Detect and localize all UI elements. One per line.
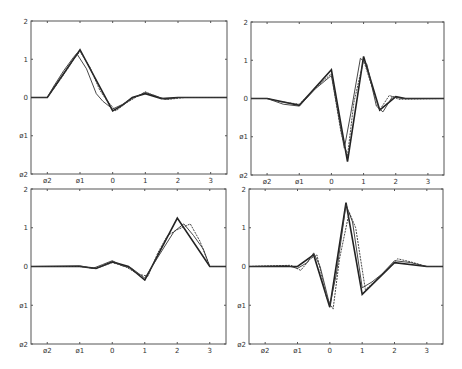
x-tick-label: ø2 xyxy=(43,347,52,355)
y-tick-label: 2 xyxy=(242,186,246,194)
series-estimate-1 xyxy=(251,58,444,148)
series-true xyxy=(31,50,227,111)
chart-figure: ø2ø10123ø2ø1012ø2ø10123ø2ø1012ø2ø10123ø2… xyxy=(0,0,462,369)
x-tick-label: 3 xyxy=(425,347,429,355)
x-tick-label: 1 xyxy=(143,347,147,355)
y-tick-label: 1 xyxy=(24,224,28,232)
series-estimate-2 xyxy=(251,60,444,156)
x-tick-label: ø2 xyxy=(261,347,270,355)
x-tick-label: 0 xyxy=(329,178,333,186)
panel-top-right: ø2ø10123ø2ø1012 xyxy=(239,19,444,187)
x-tick-label: 3 xyxy=(426,178,430,186)
x-tick-label: ø1 xyxy=(295,178,304,186)
y-tick-label: ø1 xyxy=(239,133,248,141)
y-tick-label: ø2 xyxy=(19,171,28,179)
x-tick-label: 2 xyxy=(175,347,179,355)
y-tick-label: 2 xyxy=(24,18,28,26)
x-tick-label: 1 xyxy=(360,347,364,355)
y-tick-label: 2 xyxy=(24,186,28,194)
y-tick-label: ø1 xyxy=(19,132,28,140)
y-tick-label: ø1 xyxy=(19,302,28,310)
series-estimate-1 xyxy=(31,224,226,278)
x-tick-label: 2 xyxy=(394,178,398,186)
y-tick-label: ø1 xyxy=(237,302,246,310)
x-tick-label: 0 xyxy=(110,177,114,185)
panel-bottom-right: ø2ø10123ø2ø1012 xyxy=(237,186,443,356)
x-tick-label: ø2 xyxy=(43,177,52,185)
y-tick-label: ø2 xyxy=(239,172,248,180)
x-tick-label: ø1 xyxy=(76,177,85,185)
x-tick-label: ø1 xyxy=(293,347,302,355)
y-tick-label: 0 xyxy=(24,263,28,271)
series-true xyxy=(31,218,226,280)
y-tick-label: 0 xyxy=(244,95,248,103)
x-tick-label: 2 xyxy=(392,347,396,355)
y-tick-label: ø2 xyxy=(237,341,246,349)
y-tick-label: 0 xyxy=(242,263,246,271)
x-tick-label: ø1 xyxy=(75,347,84,355)
series-true xyxy=(249,203,443,308)
x-tick-label: ø2 xyxy=(263,178,272,186)
x-tick-label: 0 xyxy=(328,347,332,355)
x-tick-label: 3 xyxy=(208,347,212,355)
x-tick-label: 2 xyxy=(176,177,180,185)
series-estimate-2 xyxy=(31,224,226,276)
y-tick-label: 2 xyxy=(244,19,248,27)
y-tick-label: ø2 xyxy=(19,341,28,349)
y-tick-label: 1 xyxy=(244,57,248,65)
panel-bottom-left: ø2ø10123ø2ø1012 xyxy=(19,186,226,356)
x-tick-label: 3 xyxy=(208,177,212,185)
y-tick-label: 0 xyxy=(24,94,28,102)
y-tick-label: 1 xyxy=(24,56,28,64)
x-tick-label: 0 xyxy=(110,347,114,355)
x-tick-label: 1 xyxy=(361,178,365,186)
series-estimate-1 xyxy=(249,205,443,306)
series-estimate-1 xyxy=(31,54,227,110)
series-true xyxy=(251,56,444,161)
panel-top-left: ø2ø10123ø2ø1012 xyxy=(19,18,227,186)
y-tick-label: 1 xyxy=(242,224,246,232)
series-estimate-2 xyxy=(249,212,443,309)
series-estimate-2 xyxy=(31,52,227,111)
x-tick-label: 1 xyxy=(143,177,147,185)
